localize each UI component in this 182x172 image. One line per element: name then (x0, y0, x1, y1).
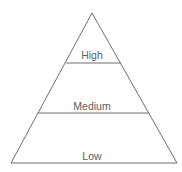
tier-label-high: High (42, 49, 142, 61)
pyramid-diagram: High Medium Low (0, 0, 182, 172)
tier-label-medium: Medium (42, 100, 142, 112)
pyramid-triangle (11, 13, 177, 163)
tier-label-low: Low (42, 150, 142, 162)
pyramid-outline (0, 0, 182, 172)
